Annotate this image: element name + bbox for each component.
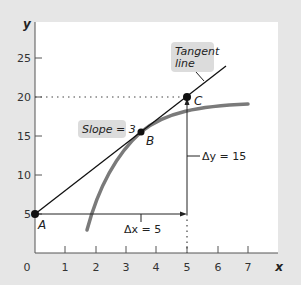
tangent-callout-line2: line <box>175 57 195 70</box>
x-tick-label-1: 1 <box>62 261 69 274</box>
y-tick-label-10: 10 <box>17 169 31 182</box>
slope-callout-label: Slope = 3 <box>82 123 136 136</box>
x-tick-label-2: 2 <box>93 261 100 274</box>
x-tick-label-6: 6 <box>215 261 222 274</box>
delta-y-label: Δy = 15 <box>202 150 246 163</box>
point-c-label: C <box>194 94 203 108</box>
point-a-label: A <box>37 218 46 232</box>
y-axis-label: y <box>23 17 32 31</box>
point-b <box>138 129 145 136</box>
point-c <box>183 93 191 101</box>
x-tick-label-5: 5 <box>184 261 191 274</box>
y-tick-label-20: 20 <box>17 91 31 104</box>
origin-label: 0 <box>24 261 31 274</box>
y-tick-label-5: 5 <box>24 208 31 221</box>
x-tick-label-7: 7 <box>245 261 252 274</box>
tangent-slope-chart: 5 10 15 20 25 y 0 1 2 3 4 5 6 7 x A B C … <box>0 0 301 285</box>
x-tick-label-4: 4 <box>153 261 160 274</box>
plot-area <box>35 22 278 253</box>
delta-x-label: Δx = 5 <box>124 223 161 236</box>
point-a <box>31 210 39 218</box>
point-b-label: B <box>146 134 154 148</box>
y-tick-label-25: 25 <box>17 52 31 65</box>
x-axis-label: x <box>274 260 284 274</box>
y-tick-label-15: 15 <box>17 130 31 143</box>
x-tick-label-3: 3 <box>123 261 130 274</box>
